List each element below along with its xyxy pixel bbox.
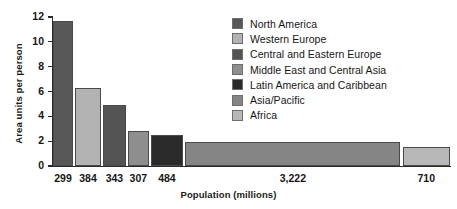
- legend-item: Western Europe: [232, 31, 387, 46]
- bar: [185, 142, 400, 166]
- y-tick-label: 4: [20, 109, 44, 121]
- x-tick-label: 299: [54, 172, 72, 184]
- x-tick-label: 710: [418, 172, 436, 184]
- legend-label: Middle East and Central Asia: [250, 64, 386, 76]
- x-tick-label: 343: [106, 172, 124, 184]
- x-tick-label: 307: [130, 172, 148, 184]
- legend-label: Asia/Pacific: [250, 94, 305, 106]
- bar: [128, 131, 148, 166]
- y-tick-label: 6: [20, 85, 44, 97]
- y-tick-label: 10: [20, 35, 44, 47]
- legend-item: Asia/Pacific: [232, 92, 387, 107]
- y-tick-label: 0: [20, 159, 44, 171]
- legend-swatch-icon: [232, 49, 243, 60]
- legend-label: Western Europe: [250, 33, 326, 45]
- legend-item: Africa: [232, 108, 387, 123]
- legend-label: Latin America and Caribbean: [250, 79, 387, 91]
- x-tick-label: 384: [79, 172, 97, 184]
- bar: [151, 135, 183, 166]
- legend-item: Latin America and Caribbean: [232, 77, 387, 92]
- x-tick-label: 484: [158, 172, 176, 184]
- legend-swatch-icon: [232, 79, 243, 90]
- x-tick-label: 3,222: [280, 172, 306, 184]
- chart-container: Area units per person 024681012 29938434…: [0, 0, 457, 209]
- legend-swatch-icon: [232, 110, 243, 121]
- legend-swatch-icon: [232, 18, 243, 29]
- legend-label: Africa: [250, 109, 277, 121]
- bar: [403, 147, 450, 166]
- bar: [103, 105, 126, 166]
- y-tick-label: 2: [20, 134, 44, 146]
- legend-item: Middle East and Central Asia: [232, 62, 387, 77]
- legend-item: Central and Eastern Europe: [232, 47, 387, 62]
- legend-label: Central and Eastern Europe: [250, 48, 381, 60]
- legend-swatch-icon: [232, 64, 243, 75]
- legend: North AmericaWestern EuropeCentral and E…: [232, 16, 387, 123]
- x-axis-line: [52, 166, 451, 167]
- legend-label: North America: [250, 18, 317, 30]
- x-axis-title: Population (millions): [0, 189, 457, 200]
- y-tick-label: 12: [20, 10, 44, 22]
- y-tick-label: 8: [20, 60, 44, 72]
- legend-swatch-icon: [232, 95, 243, 106]
- legend-item: North America: [232, 16, 387, 31]
- bar: [75, 88, 101, 166]
- bar: [53, 21, 73, 166]
- legend-swatch-icon: [232, 33, 243, 44]
